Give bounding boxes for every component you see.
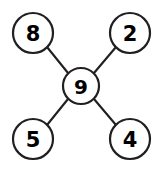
- node-bottom-left[interactable]: 5: [13, 119, 53, 159]
- edge-top-right-to-center: [94, 47, 116, 73]
- edge-bottom-right-to-center: [94, 99, 116, 125]
- node-bottom-right-label: 4: [123, 128, 138, 152]
- diagram-canvas: 8 2 5 4 9: [0, 0, 163, 172]
- node-bottom-right[interactable]: 4: [110, 119, 150, 159]
- edge-top-left-to-center: [47, 47, 68, 73]
- node-top-left[interactable]: 8: [13, 13, 53, 53]
- node-center[interactable]: 9: [63, 68, 99, 104]
- node-top-right-label: 2: [123, 22, 138, 46]
- node-link-diagram: 8 2 5 4 9: [0, 0, 163, 172]
- edge-bottom-left-to-center: [47, 99, 68, 125]
- node-top-right[interactable]: 2: [110, 13, 150, 53]
- node-bottom-left-label: 5: [26, 128, 41, 152]
- node-top-left-label: 8: [26, 22, 41, 46]
- node-center-label: 9: [74, 75, 88, 99]
